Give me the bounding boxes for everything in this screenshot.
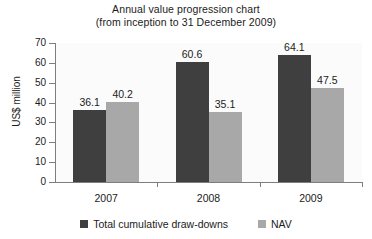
bar-value-label: 47.5 xyxy=(306,75,349,86)
bar xyxy=(176,62,209,182)
legend-label: NAV xyxy=(271,218,292,230)
y-tick-label: 70 xyxy=(14,38,46,48)
y-tick-label: 0 xyxy=(14,177,46,187)
y-tick-label: 30 xyxy=(14,117,46,127)
y-tick-label: 50 xyxy=(14,78,46,88)
legend-swatch-icon xyxy=(80,220,88,228)
chart-title: Annual value progression chart (from inc… xyxy=(0,3,372,29)
y-tick-label: 40 xyxy=(14,98,46,108)
x-axis-line xyxy=(55,182,363,183)
y-axis-line xyxy=(55,43,56,183)
legend-item: NAV xyxy=(258,218,292,230)
legend-label: Total cumulative draw-downs xyxy=(93,218,228,230)
chart-title-line-2: (from inception to 31 December 2009) xyxy=(0,16,372,29)
annual-value-progression-chart: Annual value progression chart (from inc… xyxy=(0,0,372,239)
chart-legend: Total cumulative draw-downsNAV xyxy=(0,218,372,230)
bar-value-label: 60.6 xyxy=(171,49,214,60)
y-tick-label: 20 xyxy=(14,137,46,147)
y-tick-label: 60 xyxy=(14,58,46,68)
bar xyxy=(209,112,242,182)
legend-swatch-icon xyxy=(258,220,266,228)
bar-value-label: 40.2 xyxy=(101,89,144,100)
bar xyxy=(106,102,139,182)
chart-title-line-1: Annual value progression chart xyxy=(112,3,260,15)
bar-value-label: 64.1 xyxy=(273,42,316,53)
y-tick-label: 10 xyxy=(14,157,46,167)
bar xyxy=(311,88,344,182)
x-tick-label: 2008 xyxy=(164,192,254,204)
legend-item: Total cumulative draw-downs xyxy=(80,218,228,230)
bar xyxy=(73,110,106,182)
x-tick-label: 2007 xyxy=(61,192,151,204)
x-tick-label: 2009 xyxy=(266,192,356,204)
bar-value-label: 35.1 xyxy=(204,99,247,110)
